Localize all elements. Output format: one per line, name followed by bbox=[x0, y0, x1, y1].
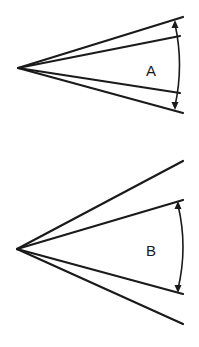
angle-comparison-diagram: A B bbox=[0, 0, 199, 347]
diagram-a-arrowhead-bottom-icon bbox=[172, 102, 179, 110]
diagram-b: B bbox=[17, 161, 183, 324]
diagram-b-inner-upper-line bbox=[17, 200, 183, 249]
diagram-b-outer-upper-line bbox=[17, 161, 183, 249]
diagram-b-angle-arc bbox=[178, 205, 183, 289]
diagram-a-label: A bbox=[146, 62, 156, 79]
diagram-a-outer-upper-line bbox=[18, 17, 183, 68]
diagram-b-label: B bbox=[146, 242, 156, 259]
diagram-a: A bbox=[18, 17, 183, 113]
